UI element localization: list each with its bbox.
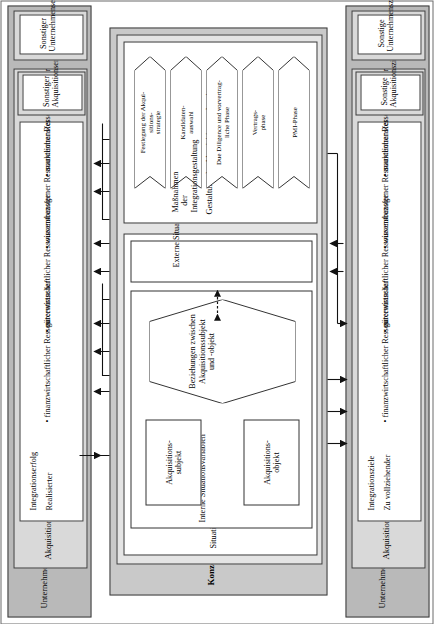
sonstige-unternehmensziele-label: Sonstige Unternehmensziele	[376, 15, 395, 51]
integrationserfolg-heading: Integrationserfolg	[28, 451, 37, 510]
integrationsziele-heading: Integrationsziele	[366, 455, 375, 510]
phase-label: Vertrags- phase	[250, 109, 265, 134]
akquisitionsobjekt-label: Akquisitions- objekt	[262, 440, 281, 485]
beziehungen-label: Beziehungen zwischen Akquisitionssubjekt…	[187, 313, 216, 389]
akquisitionssubjekt-box: Akquisitions- subjekt	[145, 419, 201, 505]
phase-chevron: Festlegung der Akqui- sitions- strategie	[134, 56, 165, 188]
phase-label: Kandidaten- auswahl	[178, 105, 193, 139]
bezugsrahmen-band: Konzeptioneller Bezugsrahmen des Erfolgs…	[109, 27, 327, 595]
externe-situationsvariablen-box: Externe Situationsvariablen	[130, 240, 312, 282]
integrationsgestaltung-label: Maßnahmen der Integrationsgestaltung	[170, 188, 198, 212]
phase-label: Festlegung der Akqui- sitions- strategie	[138, 91, 161, 153]
akquisitionssubjekt-label: Akquisitions- subjekt	[164, 440, 183, 485]
sonstiger-akquisitionserfolg-inner: Sonstiger Akquisitionserfolg	[22, 74, 82, 110]
sonstige-akquisitionsziele-box: Sonstige Akquisitionsziele	[355, 71, 423, 115]
akquisitionsziele-group: Akquisitionsziele Integrationsziele Zu v…	[351, 68, 425, 568]
gestaltung-box: Gestaltung der Akquisitionsvorbereitung …	[123, 41, 317, 223]
integrationsziele-box: Integrationsziele Zu vollziehender • fin…	[357, 121, 421, 521]
interne-situationsvariablen-box: Interne Situationsvariablen Akquisitions…	[130, 290, 312, 528]
sonstiger-akquisitionserfolg-label: Sonstiger Akquisitionserfolg	[41, 75, 60, 107]
phase-label: Due Diligence und vorvertrag- liche Phas…	[214, 80, 229, 165]
sonstiger-unternehmenserfolg-label: Sonstiger Unternehmenserfolg	[38, 15, 57, 51]
sonstige-akquisitionsziele-label: Sonstige Akquisitionsziele	[379, 75, 398, 107]
sonstige-akquisitionsziele-inner: Sonstige Akquisitionsziele	[360, 74, 420, 110]
akquisitionserfolg-group: Akquisitionserfolg Integrationserfolg Re…	[13, 68, 87, 568]
unternehmensziele-band: Unternehmensziele Akquisitionsziele Inte…	[345, 5, 429, 617]
unternehmenserfolg-band: Unternehmenserfolg Akquisitionserfolg In…	[7, 5, 91, 617]
phase-chevron: PMI-Phase	[278, 56, 309, 188]
sonstiger-unternehmenserfolg-group: Sonstiger Unternehmenserfolg	[13, 10, 87, 60]
phase-label: PMI-Phase	[290, 107, 298, 138]
sonstiger-akquisitionserfolg-box: Sonstiger Akquisitionserfolg	[17, 71, 85, 115]
sonstiger-unternehmenserfolg-box: Sonstiger Unternehmenserfolg	[19, 14, 83, 54]
phase-chevron: Vertrags- phase	[242, 56, 273, 188]
bezugsrahmen-inner: Situationsvariablen Interne Situationsva…	[116, 34, 322, 564]
situationsvariablen-box: Situationsvariablen Interne Situationsva…	[123, 233, 317, 555]
integrationserfolg-box: Integrationserfolg Realisierter • finanz…	[19, 121, 83, 521]
beziehungen-hexagon: Beziehungen zwischen Akquisitionssubjekt…	[149, 299, 295, 403]
sonstige-unternehmensziele-box: Sonstige Unternehmensziele	[357, 14, 421, 54]
realisierter-subheading: Realisierter	[44, 472, 53, 510]
sonstige-unternehmensziele-group: Sonstige Unternehmensziele	[351, 10, 425, 60]
akquisitionsobjekt-box: Akquisitions- objekt	[243, 419, 299, 505]
phase-chevron: Due Diligence und vorvertrag- liche Phas…	[206, 56, 237, 188]
zuvollziehender-subheading: Zu vollziehender	[382, 454, 391, 510]
